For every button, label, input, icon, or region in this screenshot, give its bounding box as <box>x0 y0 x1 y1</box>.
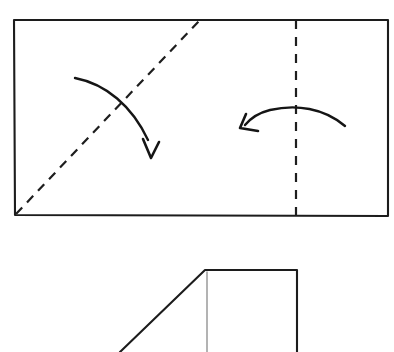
folding-diagram-canvas <box>0 0 394 352</box>
bottom-folded-result-group <box>120 270 297 352</box>
folding-diagram-root <box>0 0 394 352</box>
top-unfolded-sheet-group <box>14 20 388 216</box>
folded-result-outline <box>120 270 297 352</box>
